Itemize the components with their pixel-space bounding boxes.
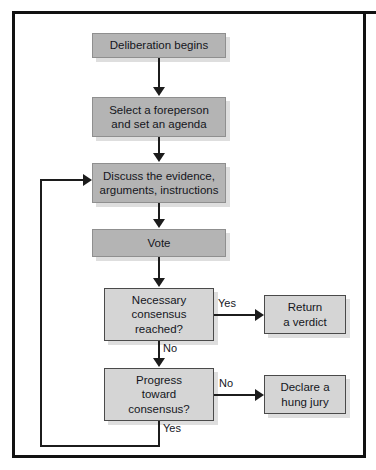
edge-loop-into-discuss [40,179,84,181]
edge-label-consensus-no: No [163,342,177,354]
node-label-line2: consensus [128,307,191,321]
edge-arrowhead-down [153,358,165,367]
page-frame-bottom-rule [12,455,366,458]
edge-loop-left-segment [40,179,42,447]
node-label: Vote [143,236,174,250]
node-vote[interactable]: Vote [92,229,226,257]
edge-progress-yes-down [158,421,160,447]
flowchart-canvas: Deliberation begins Select a foreperson … [15,14,363,455]
edge-arrowhead-down [153,87,165,96]
edge-vote-to-consensus [158,257,160,279]
edge-discuss-to-vote [158,203,160,220]
edge-consensus-yes-to-verdict [214,314,255,316]
edge-label-progress-yes: Yes [163,422,181,434]
edge-arrowhead-right [83,174,92,186]
edge-arrowhead-right [255,389,264,401]
node-label-line2: and set an agenda [107,117,210,131]
node-label-line1: Necessary [128,293,190,307]
node-label-line1: Return [284,300,327,314]
node-label-line1: Discuss the evidence, [99,169,219,183]
node-label-line1: Select a foreperson [105,103,213,117]
edge-foreperson-to-discuss [158,137,160,154]
page-frame-right-rule [363,11,366,458]
node-progress-toward-consensus[interactable]: Progress toward consensus? [104,368,214,421]
node-label-line3: consensus? [124,402,193,416]
edge-loop-bottom-segment [40,445,160,447]
flowchart-page: Deliberation begins Select a foreperson … [0,0,376,470]
edge-label-progress-no: No [219,377,233,389]
node-return-a-verdict[interactable]: Return a verdict [264,295,346,334]
node-label-line2: a verdict [279,315,330,329]
node-label-line1: Progress [132,373,186,387]
node-label-line2: toward [138,387,181,401]
node-discuss-evidence[interactable]: Discuss the evidence, arguments, instruc… [92,163,226,203]
edge-arrowhead-down [153,278,165,287]
edge-progress-no-to-hungjury [214,394,255,396]
node-label-line2: hung jury [277,395,332,409]
node-deliberation-begins[interactable]: Deliberation begins [92,33,226,58]
node-select-foreperson[interactable]: Select a foreperson and set an agenda [92,97,226,137]
node-label-line1: Declare a [276,380,333,394]
node-necessary-consensus-reached[interactable]: Necessary consensus reached? [104,288,214,341]
node-declare-hung-jury[interactable]: Declare a hung jury [264,375,346,414]
edge-arrowhead-down [153,219,165,228]
edge-label-consensus-yes: Yes [218,297,236,309]
node-label-line3: reached? [131,322,187,336]
node-label-line2: arguments, instructions [96,183,223,197]
edge-consensus-no-to-progress [158,341,160,359]
edge-arrowhead-down [153,153,165,162]
edge-arrowhead-right [255,309,264,321]
node-label: Deliberation begins [106,38,212,52]
edge-start-to-foreperson [158,58,160,88]
